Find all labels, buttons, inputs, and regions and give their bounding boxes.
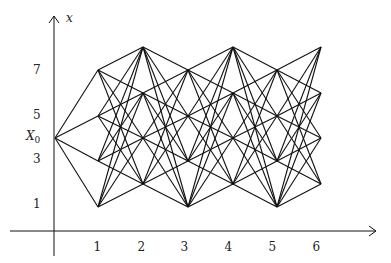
- start-label-main: X: [25, 129, 35, 143]
- x-tick-label: 5: [269, 240, 277, 254]
- graph-edge: [277, 138, 321, 207]
- graph-edge: [188, 47, 233, 70]
- graph-edge: [188, 184, 233, 207]
- lattice-path-diagram: x 7531 123456 X0: [0, 0, 391, 263]
- graph-edge: [277, 184, 321, 207]
- graph-edge: [98, 138, 143, 207]
- y-tick-label: 7: [33, 63, 41, 77]
- graph-edge: [277, 47, 321, 116]
- graph-edge: [55, 138, 98, 161]
- y-tick-label: 5: [33, 108, 41, 122]
- graph-edge: [233, 70, 277, 93]
- graph-edge: [233, 47, 277, 70]
- x-tick-label: 6: [313, 240, 321, 254]
- x-tick-labels: 123456: [94, 240, 321, 254]
- axes: [10, 16, 376, 256]
- graph-edge: [143, 161, 188, 184]
- graph-edge: [143, 47, 188, 70]
- graph-edge: [98, 47, 143, 70]
- graph-edge: [188, 138, 233, 207]
- x-tick-label: 3: [181, 240, 189, 254]
- x-tick-label: 2: [138, 240, 146, 254]
- graph-edge: [188, 47, 233, 116]
- graph-edge: [143, 184, 188, 207]
- vertical-axis-label: x: [66, 11, 73, 25]
- graph-edges: [55, 47, 321, 207]
- graph-edge: [55, 138, 98, 207]
- graph-edge: [143, 70, 188, 93]
- graph-edge: [233, 161, 277, 184]
- start-node-label: X0: [25, 129, 41, 145]
- y-tick-label: 3: [33, 152, 41, 166]
- graph-edge: [233, 184, 277, 207]
- x-tick-label: 1: [94, 240, 102, 254]
- graph-edge: [55, 70, 98, 138]
- graph-edge: [98, 47, 143, 116]
- y-tick-label: 1: [33, 197, 41, 211]
- x-tick-label: 4: [225, 240, 233, 254]
- graph-edge: [98, 184, 143, 207]
- graph-edge: [277, 47, 321, 70]
- start-label-subscript: 0: [35, 135, 41, 145]
